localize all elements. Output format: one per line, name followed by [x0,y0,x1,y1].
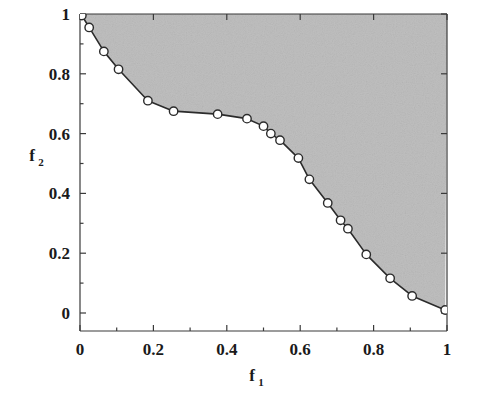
x-tick-label: 0.2 [143,340,164,359]
data-point-marker [294,154,302,162]
data-point-marker [305,175,313,183]
x-axis-title-subscript: 1 [258,376,264,388]
chart-figure: 00.20.40.60.81 00.20.40.60.81 f 1 f 2 [0,0,492,405]
data-point-marker [144,97,152,105]
data-point-marker [362,250,370,258]
data-point-marker [213,110,221,118]
x-axis-title-text: f [249,366,255,385]
data-point-marker [441,306,449,314]
y-tick-label: 1 [62,5,71,24]
y-tick-label: 0 [62,304,71,323]
y-axis-tick-labels: 00.20.40.60.81 [49,5,71,323]
data-point-marker [386,274,394,282]
y-tick-label: 0.2 [49,244,70,263]
data-point-marker [267,129,275,137]
x-tick-label: 0 [76,340,85,359]
data-point-marker [336,216,344,224]
y-axis-title-subscript: 2 [38,156,44,168]
x-tick-label: 0.6 [290,340,311,359]
data-point-marker [408,292,416,300]
y-tick-label: 0.4 [49,184,71,203]
y-tick-label: 0.8 [49,65,70,84]
x-tick-label: 0.4 [216,340,238,359]
data-point-marker [344,224,352,232]
data-point-marker [324,199,332,207]
data-point-marker [243,114,251,122]
x-tick-label: 0.8 [363,340,384,359]
x-tick-label: 1 [443,340,452,359]
data-point-marker [169,107,177,115]
y-axis-title: f 2 [29,146,44,168]
x-axis-title: f 1 [249,366,264,388]
x-axis-tick-labels: 00.20.40.60.81 [76,340,452,359]
data-point-marker [259,122,267,130]
data-point-marker [78,11,86,19]
data-point-marker [85,23,93,31]
y-tick-label: 0.6 [49,125,70,144]
data-point-marker [276,136,284,144]
data-point-marker [114,65,122,73]
pareto-front-chart: 00.20.40.60.81 00.20.40.60.81 f 1 f 2 [0,0,492,405]
data-point-marker [100,47,108,55]
y-axis-title-text: f [29,146,35,165]
shaded-dominated-region [80,14,447,310]
